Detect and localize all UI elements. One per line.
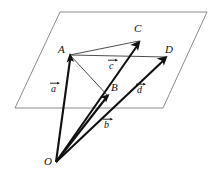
vector-shaft-od (56, 60, 164, 162)
vector-label-a: a (51, 84, 56, 94)
point-label-b: B (111, 82, 118, 93)
vector-label-b: b (104, 120, 109, 130)
vector-label-d-text: d (137, 84, 142, 95)
diagram-canvas (0, 0, 211, 181)
vector-diagram: O A B C D a b (0, 0, 211, 181)
vector-label-b-text: b (104, 119, 109, 130)
point-label-o: O (44, 156, 52, 167)
connector-line-a-to-d (70, 55, 166, 57)
connector-line-a-to-c (70, 41, 139, 55)
vector-label-d: d (137, 85, 142, 95)
vector-label-c: c (109, 61, 113, 71)
point-label-c: C (134, 23, 141, 34)
vector-shaft-oc (56, 46, 137, 162)
point-label-d: D (165, 44, 173, 55)
vector-label-a-text: a (51, 83, 56, 94)
connector-line-a-to-b (70, 55, 108, 96)
vector-label-c-text: c (109, 60, 113, 71)
point-label-a: A (58, 44, 65, 55)
